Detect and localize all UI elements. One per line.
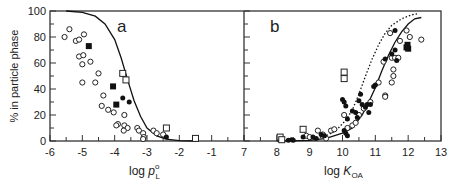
x-tick-label: 8 <box>274 146 280 158</box>
open-circle-marker <box>389 80 394 85</box>
open-circle-marker <box>315 128 320 133</box>
y-tick-label: 80 <box>34 31 46 43</box>
filled-circle-marker <box>358 92 363 97</box>
open-circle-marker <box>121 128 126 133</box>
open-square-marker <box>163 125 169 131</box>
open-circle-marker <box>81 32 86 37</box>
filled-circle-marker <box>301 135 306 140</box>
open-circle-marker <box>106 107 111 112</box>
solid-model-curve <box>66 11 195 141</box>
filled-circle-marker <box>127 100 132 105</box>
x-tick-label: 10 <box>336 146 348 158</box>
x-tick-label: -1 <box>207 146 217 158</box>
open-circle-marker <box>419 37 424 42</box>
filled-circle-marker <box>368 102 373 107</box>
filled-circle-marker <box>373 83 378 88</box>
filled-circle-marker <box>343 103 348 108</box>
open-circle-marker <box>391 73 396 78</box>
filled-circle-marker <box>120 96 125 101</box>
y-tick-label: 0 <box>40 135 46 147</box>
x-axis-label-b: log KOA <box>324 164 364 180</box>
open-circle-marker <box>391 67 396 72</box>
open-circle-marker <box>407 34 412 39</box>
x-tick-label: -3 <box>142 146 152 158</box>
filled-circle-marker <box>291 138 296 143</box>
y-tick-label: 20 <box>34 109 46 121</box>
open-square-marker <box>279 137 285 143</box>
filled-circle-marker <box>383 57 388 62</box>
solid-model-curve <box>277 18 422 142</box>
open-circle-marker <box>62 34 67 39</box>
open-square-marker <box>120 70 126 76</box>
open-circle-marker <box>332 127 337 132</box>
filled-circle-marker <box>322 133 327 138</box>
filled-square-marker <box>405 46 411 52</box>
open-circle-marker <box>93 80 98 85</box>
filled-circle-marker <box>389 51 394 56</box>
filled-square-marker <box>86 43 92 49</box>
filled-circle-marker <box>314 136 319 141</box>
open-circle-marker <box>154 131 159 136</box>
open-circle-marker <box>77 37 82 42</box>
filled-circle-marker <box>355 115 360 120</box>
open-circle-marker <box>101 93 106 98</box>
x-tick-label: 13 <box>435 146 447 158</box>
open-square-marker <box>193 135 199 141</box>
x-tick-label: 9 <box>307 146 313 158</box>
open-circle-marker <box>88 59 93 64</box>
open-circle-marker <box>404 28 409 33</box>
open-circle-marker <box>388 30 393 35</box>
open-circle-marker <box>397 38 402 43</box>
y-tick-label: 40 <box>34 83 46 95</box>
x-tick-label: 7 <box>241 146 247 158</box>
filled-square-marker <box>110 83 116 89</box>
open-circle-marker <box>114 123 119 128</box>
filled-circle-marker <box>366 110 371 115</box>
particle-phase-chart: -6-5-4-3-2-102040608010078910111213 % in… <box>0 0 458 185</box>
filled-circle-marker <box>394 58 399 63</box>
open-circle-marker <box>96 71 101 76</box>
filled-circle-marker <box>345 116 350 121</box>
y-axis-label: % in particle phase <box>8 30 20 123</box>
y-tick-label: 60 <box>34 57 46 69</box>
filled-circle-marker <box>393 48 398 53</box>
axes-frame: -6-5-4-3-2-102040608010078910111213 <box>28 5 447 158</box>
open-circle-marker <box>122 112 127 117</box>
x-tick-label: -6 <box>45 146 55 158</box>
open-square-marker <box>341 76 347 82</box>
filled-circle-marker <box>164 135 169 140</box>
open-circle-marker <box>141 136 146 141</box>
x-tick-label: -2 <box>174 146 184 158</box>
panel-a-plot <box>62 11 199 142</box>
panel-b-label: b <box>270 17 279 36</box>
x-axis-label-a: log poL <box>129 162 161 181</box>
panel-a-label: a <box>117 17 127 36</box>
open-square-marker <box>341 69 347 75</box>
filled-circle-marker <box>345 133 350 138</box>
open-circle-marker <box>353 120 358 125</box>
panel-b-plot <box>277 14 424 143</box>
open-circle-marker <box>81 53 86 58</box>
filled-circle-marker <box>353 110 358 115</box>
x-tick-label: 12 <box>402 146 414 158</box>
open-circle-marker <box>67 27 72 32</box>
filled-circle-marker <box>356 98 361 103</box>
x-tick-label: -4 <box>110 146 120 158</box>
y-tick-label: 100 <box>28 5 46 17</box>
x-tick-label: 11 <box>370 146 381 158</box>
open-circle-marker <box>383 94 388 99</box>
open-square-marker <box>300 126 306 132</box>
filled-circle-marker <box>393 28 398 33</box>
open-square-marker <box>123 77 129 83</box>
filled-square-marker <box>113 102 119 108</box>
open-circle-marker <box>99 103 104 108</box>
open-circle-marker <box>80 62 85 67</box>
open-circle-marker <box>342 112 347 117</box>
open-circle-marker <box>111 110 116 115</box>
x-tick-label: -5 <box>77 146 87 158</box>
open-circle-marker <box>80 80 85 85</box>
